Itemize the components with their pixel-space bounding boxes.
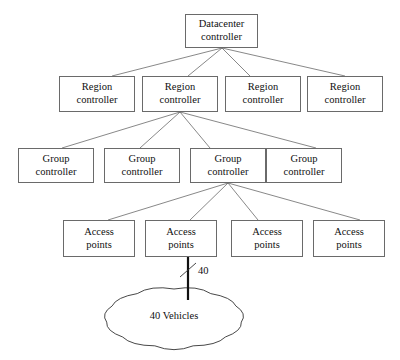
- node-region-0[interactable]: Regioncontroller: [59, 76, 135, 112]
- node-label-line1: Access: [334, 226, 364, 239]
- node-label-line1: Region: [248, 81, 278, 94]
- node-region-1[interactable]: Regioncontroller: [142, 76, 218, 112]
- connector-region-1-to-group-0: [62, 112, 180, 148]
- node-region-3[interactable]: Regioncontroller: [307, 76, 383, 112]
- node-label-line1: Datacenter: [199, 18, 244, 31]
- node-label-line1: Group: [129, 153, 156, 166]
- node-label-line1: Access: [166, 226, 196, 239]
- node-label-line1: Group: [43, 153, 70, 166]
- node-access-3[interactable]: Accesspoints: [313, 220, 385, 257]
- node-access-0[interactable]: Accesspoints: [63, 220, 135, 257]
- node-group-3[interactable]: Groupcontroller: [266, 148, 342, 183]
- node-label-line2: points: [86, 239, 112, 252]
- node-label-line2: points: [336, 239, 362, 252]
- node-label-line2: controller: [325, 94, 366, 107]
- node-label-line2: controller: [201, 31, 242, 44]
- trunk-multiplicity-label: 40: [198, 265, 209, 276]
- node-label-line1: Region: [82, 81, 112, 94]
- node-datacenter-0[interactable]: Datacentercontroller: [185, 14, 258, 48]
- node-label-line2: controller: [284, 166, 325, 179]
- connector-region-1-to-group-3: [180, 112, 316, 148]
- node-label-line1: Group: [291, 153, 318, 166]
- node-label-line2: controller: [36, 166, 77, 179]
- node-label-line1: Group: [215, 153, 242, 166]
- node-group-2[interactable]: Groupcontroller: [190, 148, 266, 183]
- node-label-line1: Region: [330, 81, 360, 94]
- node-access-1[interactable]: Accesspoints: [145, 220, 217, 257]
- connector-lines: [62, 48, 360, 220]
- cloud-label: 40 Vehicles: [114, 310, 234, 321]
- node-label-line2: controller: [208, 166, 249, 179]
- diagram-canvas: DatacentercontrollerRegioncontrollerRegi…: [0, 0, 400, 360]
- connector-group-2-to-access-2: [228, 183, 258, 220]
- node-access-2[interactable]: Accesspoints: [231, 220, 303, 257]
- node-label-line1: Access: [252, 226, 282, 239]
- node-label-line2: controller: [160, 94, 201, 107]
- connector-group-2-to-access-0: [108, 183, 228, 220]
- connector-datacenter-0-to-region-2: [222, 48, 250, 76]
- connector-datacenter-0-to-region-3: [222, 48, 345, 76]
- node-region-2[interactable]: Regioncontroller: [225, 76, 301, 112]
- node-label-line2: controller: [122, 166, 163, 179]
- node-label-line1: Access: [84, 226, 114, 239]
- node-label-line2: points: [168, 239, 194, 252]
- connector-group-2-to-access-3: [228, 183, 360, 220]
- connector-region-1-to-group-2: [180, 112, 210, 148]
- node-label-line2: controller: [77, 94, 118, 107]
- node-label-line2: controller: [243, 94, 284, 107]
- node-label-line1: Region: [165, 81, 195, 94]
- node-group-0[interactable]: Groupcontroller: [18, 148, 94, 183]
- node-group-1[interactable]: Groupcontroller: [104, 148, 180, 183]
- connector-region-1-to-group-1: [140, 112, 180, 148]
- node-label-line2: points: [254, 239, 280, 252]
